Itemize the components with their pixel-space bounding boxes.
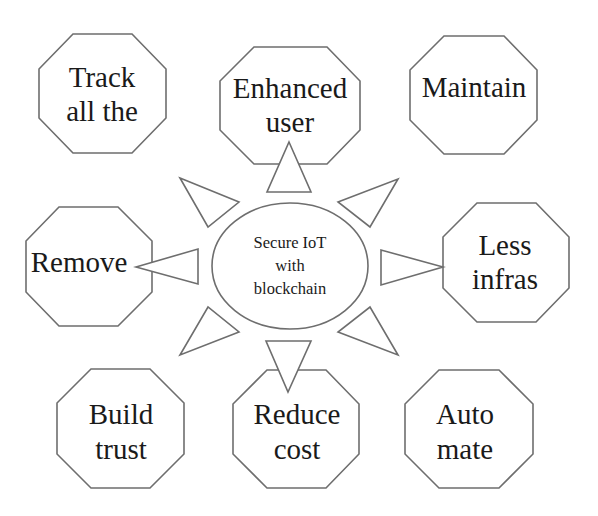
- node-label-line-1: Auto: [436, 398, 494, 430]
- node-reduce-cost: Reduce cost: [233, 370, 359, 488]
- diagram-canvas: Track all the Enhanced user Maintain Rem…: [0, 0, 598, 516]
- node-label-line-1: Build: [89, 398, 154, 430]
- node-label-line-1: Track: [69, 61, 136, 93]
- node-label-line-2: infras: [472, 263, 538, 295]
- triangle-arrow-down-right-icon: [338, 307, 398, 355]
- node-label-line-2: all the: [66, 95, 138, 127]
- node-label-line-1: Remove: [31, 246, 128, 278]
- center-label-line-2: with: [275, 256, 305, 275]
- triangle-arrow-down-left-icon: [180, 307, 239, 355]
- octagon-shape: [39, 34, 166, 153]
- node-track: Track all the: [39, 34, 166, 153]
- node-automate: Auto mate: [405, 370, 533, 488]
- node-label-line-2: mate: [437, 433, 493, 465]
- node-remove: Remove: [26, 207, 152, 326]
- triangle-arrow-right-icon: [381, 250, 443, 285]
- node-maintain: Maintain: [410, 36, 537, 154]
- node-label-line-2: cost: [274, 433, 321, 465]
- node-label-line-1: Less: [478, 229, 531, 261]
- triangle-arrow-up-left-icon: [180, 178, 239, 227]
- node-build-trust: Build trust: [57, 369, 184, 488]
- triangle-arrow-up-right-icon: [338, 179, 398, 227]
- node-label-line-2: user: [266, 106, 315, 138]
- node-label-line-2: trust: [95, 433, 147, 465]
- node-less-infras: Less infras: [443, 203, 569, 322]
- center-label-line-3: blockchain: [254, 279, 326, 298]
- center-node: Secure IoT with blockchain: [212, 203, 368, 329]
- center-label-line-1: Secure IoT: [254, 233, 327, 252]
- node-label-line-1: Enhanced: [233, 72, 348, 104]
- node-label-line-1: Reduce: [254, 398, 341, 430]
- node-label-line-1: Maintain: [422, 71, 527, 103]
